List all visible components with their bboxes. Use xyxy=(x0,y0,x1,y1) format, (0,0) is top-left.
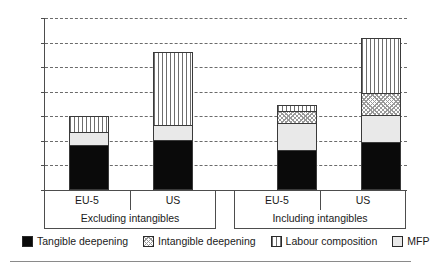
vertical-lines-swatch-icon xyxy=(392,236,403,247)
bar-segment-mfp xyxy=(154,53,192,126)
bar-segment-mfp xyxy=(362,39,400,95)
ytick-mark-2.5 xyxy=(41,67,45,68)
bar-segment-intangible-deepening xyxy=(362,116,400,143)
light-gray-swatch-icon xyxy=(271,236,282,247)
bar-segment-labour-composition xyxy=(154,126,192,141)
bar-eu5-including[interactable] xyxy=(277,105,317,190)
bar-us-excluding[interactable] xyxy=(153,52,193,190)
bar-segment-tangible-deepening xyxy=(278,151,316,189)
bar-segment-tangible-deepening xyxy=(154,141,192,189)
legend-item-tangible-deepening[interactable]: Tangible deepening xyxy=(22,236,128,247)
ytick-mark-1.0 xyxy=(41,141,45,142)
gridline-2.5 xyxy=(45,67,407,68)
legend-label-labour-composition: Labour composition xyxy=(286,236,378,247)
category-axis: EU-5 US Excluding intangibles EU-5 US In… xyxy=(44,191,406,229)
group-label-excluding-intangibles: Excluding intangibles xyxy=(44,211,216,226)
bottom-divider xyxy=(10,261,411,262)
bar-segment-mfp xyxy=(70,117,108,132)
crosshatch-swatch-icon xyxy=(143,236,154,247)
category-label-us-including: US xyxy=(320,193,406,208)
category-label-eu5-including: EU-5 xyxy=(234,193,320,208)
bar-segment-labour-composition xyxy=(70,133,108,146)
ytick-mark-2.0 xyxy=(41,92,45,93)
legend-item-labour-composition[interactable]: Labour composition xyxy=(271,236,378,247)
gridline-2.0 xyxy=(45,92,407,93)
chart-legend: Tangible deepening Intangible deepening … xyxy=(22,236,434,247)
ytick-mark-0.5 xyxy=(41,165,45,166)
legend-label-intangible-deepening: Intangible deepening xyxy=(158,236,256,247)
bar-segment-intangible-deepening xyxy=(278,124,316,150)
bar-segment-labour-composition xyxy=(278,112,316,124)
legend-label-tangible-deepening: Tangible deepening xyxy=(37,236,128,247)
bar-us-including[interactable] xyxy=(361,38,401,190)
bar-segment-tangible-deepening xyxy=(362,143,400,189)
plot-area: 3.5 3.0 2.5 2.0 1.5 1.0 0.5 0.0 xyxy=(44,18,407,191)
gridline-3.0 xyxy=(45,43,407,44)
gridline-3.5 xyxy=(45,18,407,19)
solid-black-swatch-icon xyxy=(22,236,33,247)
legend-item-mfp[interactable]: MFP xyxy=(392,236,429,247)
ytick-mark-3.0 xyxy=(41,43,45,44)
category-label-us-excluding: US xyxy=(130,193,216,208)
legend-item-intangible-deepening[interactable]: Intangible deepening xyxy=(143,236,256,247)
bar-segment-labour-composition xyxy=(362,94,400,116)
ytick-mark-1.5 xyxy=(41,116,45,117)
bar-segment-tangible-deepening xyxy=(70,146,108,189)
group-label-including-intangibles: Including intangibles xyxy=(234,211,406,226)
legend-label-mfp: MFP xyxy=(407,236,429,247)
bar-eu5-excluding[interactable] xyxy=(69,116,109,190)
category-label-eu5-excluding: EU-5 xyxy=(44,193,130,208)
ytick-mark-3.5 xyxy=(41,18,45,19)
